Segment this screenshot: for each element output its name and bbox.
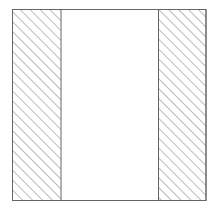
cross-section-diagram (0, 0, 218, 216)
left-hatched-wall (13, 10, 62, 201)
right-hatched-wall (159, 10, 207, 201)
